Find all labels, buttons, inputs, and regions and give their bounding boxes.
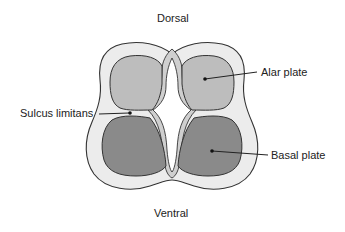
alar-plate-label: Alar plate (261, 67, 307, 78)
basal-plate-label: Basal plate (271, 150, 325, 161)
ventral-label: Ventral (154, 208, 188, 219)
alar-plate-left (110, 55, 162, 110)
sulcus-limitans-label: Sulcus limitans (20, 108, 93, 119)
alar-plate-dot (203, 77, 207, 81)
basal-plate-dot (210, 149, 214, 153)
sulcus-limitans-dot (128, 111, 132, 115)
dorsal-label: Dorsal (157, 13, 189, 24)
alar-plate-right (182, 55, 234, 110)
